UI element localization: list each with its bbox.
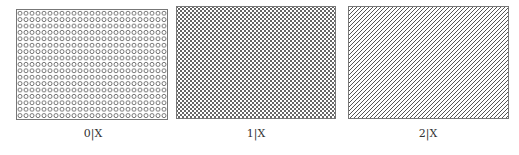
pattern-panel-diagonal [348, 6, 509, 119]
figure-label-2: 2|X [408, 127, 448, 140]
figure-label-1: 1|X [236, 127, 276, 140]
pattern-panel-crosshatch [176, 6, 336, 119]
circle-pattern-graphic [17, 10, 167, 119]
crosshatch-pattern-graphic [177, 7, 335, 118]
diagonal-pattern-graphic [349, 7, 508, 118]
figure-label-0: 0|X [73, 127, 113, 140]
pattern-panel-circles [16, 9, 168, 120]
